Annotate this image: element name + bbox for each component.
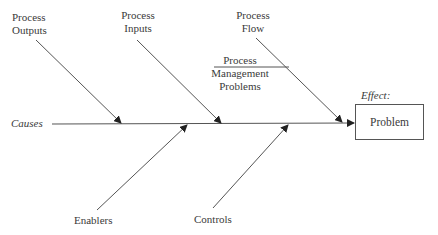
- spine-line: [52, 123, 354, 124]
- label-process-flow: Process Flow: [233, 9, 273, 35]
- branch-enablers: [97, 125, 187, 210]
- label-process-inputs: Process Inputs: [118, 9, 158, 35]
- label-line: Process: [118, 9, 158, 22]
- label-line: Process: [233, 9, 273, 22]
- label-causes: Causes: [11, 117, 43, 130]
- label-controls: Controls: [194, 213, 232, 226]
- label-line: Flow: [233, 22, 273, 35]
- branch-controls: [213, 125, 288, 208]
- label-process-management: Process Management Problems: [207, 54, 273, 93]
- label-line: Process: [207, 54, 273, 67]
- label-line: Inputs: [118, 22, 158, 35]
- label-process-outputs: Process Outputs: [12, 11, 47, 37]
- branch-process-outputs: [36, 40, 121, 123]
- label-line: Management: [207, 67, 273, 80]
- label-line: Problems: [207, 80, 273, 93]
- effect-text: Problem: [370, 116, 409, 128]
- label-line: Process: [12, 11, 47, 24]
- effect-box: Problem: [355, 104, 424, 140]
- label-line: Outputs: [12, 24, 47, 37]
- label-effect: Effect:: [361, 89, 390, 102]
- label-enablers: Enablers: [74, 214, 112, 227]
